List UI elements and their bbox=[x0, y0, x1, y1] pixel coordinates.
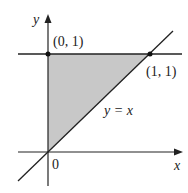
region-diagram: y x 0 (0, 1) (1, 1) y = x bbox=[0, 0, 188, 193]
x-axis-arrow-icon bbox=[174, 149, 183, 156]
y-axis-label: y bbox=[31, 12, 40, 27]
point-0-1 bbox=[46, 52, 51, 57]
point-label-1-1: (1, 1) bbox=[146, 64, 177, 80]
y-axis-arrow-icon bbox=[45, 14, 52, 23]
point-label-0-1: (0, 1) bbox=[53, 34, 84, 50]
x-axis-label: x bbox=[173, 158, 181, 173]
line-label-y-equals-x: y = x bbox=[102, 103, 134, 118]
origin-label: 0 bbox=[52, 157, 59, 172]
point-1-1 bbox=[148, 52, 153, 57]
